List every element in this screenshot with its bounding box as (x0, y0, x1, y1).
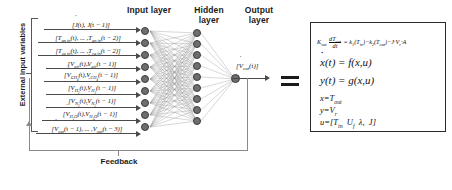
rnn-model-diagram: Input layer Hidden layer Output layer Ex… (0, 0, 452, 190)
output-layer-title-line2: layer (249, 15, 269, 25)
input-node (141, 51, 149, 59)
definition-state: x=Tout (320, 93, 342, 103)
input-label-air-flow: [Vair(t),Vair(t − 1)] (46, 60, 138, 67)
input-label-anode-inlet-temperature: [Tan,in(t), ... ,Tan,in(t − 2)] (38, 34, 138, 41)
input-row: [Tan,in(t), ... ,Tan,in(t − 2)] (38, 30, 138, 43)
external-inputs-bracket-tick (26, 73, 32, 74)
input-layer-title: Input layer (118, 6, 180, 16)
equals-sign (281, 76, 299, 88)
hidden-node (193, 51, 201, 59)
feedback-label: Feedback (88, 157, 150, 166)
definition-output: y=Vr (320, 105, 337, 115)
external-input-variables-label: External input variables (18, 5, 27, 125)
hidden-node (193, 62, 201, 70)
output-layer-title: Output layer (236, 6, 282, 25)
input-row: [J(t), J(t − 1)] (44, 17, 138, 30)
hidden-layer-title-line1: Hidden (194, 5, 223, 15)
equation-state: x(t) = f(x,u) (320, 56, 372, 68)
output-signal-arrow (265, 75, 270, 81)
feedback-arrow-icon (26, 121, 32, 126)
equation-output: y(t) = g(x,u) (320, 74, 374, 86)
input-node (141, 39, 149, 47)
output-layer-title-line1: Output (245, 5, 273, 15)
input-row: [Vair(t),Vair(t − 1)] (46, 56, 138, 69)
feedback-loop-return (29, 130, 30, 150)
hidden-node (193, 29, 201, 37)
feedback-label-tick (118, 150, 119, 156)
definition-input: u=[Tin Uf λ, J] (320, 117, 376, 127)
hidden-node (193, 40, 201, 48)
input-node (141, 27, 149, 35)
feedback-loop-path (29, 78, 248, 151)
output-signal-label: [Vout(t)] (236, 62, 258, 70)
input-label-current-density: [J(t), J(t − 1)] (44, 21, 138, 28)
hidden-layer-title-line2: layer (199, 15, 219, 25)
equation-energy-balance: Kout dToutdt = k1(Tin)−k2(Tout)−J·Vr·A (317, 36, 406, 49)
input-node (141, 63, 149, 71)
hidden-layer-title: Hidden layer (186, 6, 232, 25)
